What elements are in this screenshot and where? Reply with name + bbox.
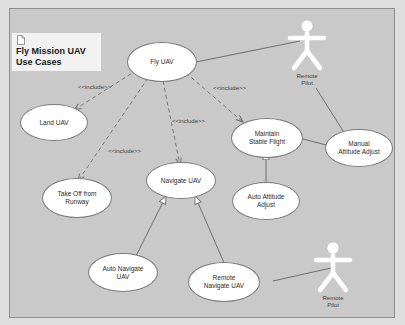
use-case-navigate-uav[interactable]: Navigate UAV xyxy=(146,162,216,199)
use-case-label: Fly UAV xyxy=(150,58,173,66)
use-case-diagram: Fly Mission UAV Use Cases Fly UAV Land U… xyxy=(0,0,405,325)
actor-remote-pilot-bottom[interactable]: Remote Pilot xyxy=(307,240,359,309)
include-label-fly-to-land: <<include>> xyxy=(78,84,111,90)
use-case-fly-uav[interactable]: Fly UAV xyxy=(127,42,197,82)
use-case-label: Navigate UAV xyxy=(161,177,201,185)
use-case-label: Manual Attitude Adjust xyxy=(338,140,380,156)
page-title: Fly Mission UAV Use Cases xyxy=(16,46,97,67)
diagram-title-box: Fly Mission UAV Use Cases xyxy=(12,33,101,71)
use-case-manual-attitude-adjust[interactable]: Manual Attitude Adjust xyxy=(325,129,393,167)
use-case-label: Maintain Stable Flight xyxy=(249,130,285,146)
include-label-fly-to-navigate: <<include>> xyxy=(172,118,205,124)
use-case-label: Remote Navigate UAV xyxy=(204,274,244,290)
use-case-remote-navigate-uav[interactable]: Remote Navigate UAV xyxy=(188,262,260,302)
use-case-auto-navigate-uav[interactable]: Auto Navigate UAV xyxy=(88,253,158,292)
use-case-label: Take Off from Runway xyxy=(58,190,97,206)
use-case-auto-attitude-adjust[interactable]: Auto Attitude Adjust xyxy=(232,182,300,220)
include-label-fly-to-takeoff: <<include>> xyxy=(108,148,141,154)
include-label-fly-to-maintain: <<include>> xyxy=(213,85,246,91)
use-case-label: Auto Navigate UAV xyxy=(103,265,144,281)
actor-remote-pilot-top[interactable]: Remote Pilot xyxy=(281,18,333,87)
use-case-label: Auto Attitude Adjust xyxy=(248,193,285,209)
actor-label: Remote Pilot xyxy=(307,295,359,309)
actor-stick-figure-icon xyxy=(307,240,359,294)
document-icon xyxy=(17,35,25,45)
actor-stick-figure-icon xyxy=(281,18,333,72)
use-case-label: Land UAV xyxy=(39,119,68,127)
use-case-maintain-stable-flight[interactable]: Maintain Stable Flight xyxy=(231,118,303,158)
use-case-take-off-runway[interactable]: Take Off from Runway xyxy=(42,178,112,218)
use-case-land-uav[interactable]: Land UAV xyxy=(20,104,88,141)
actor-label: Remote Pilot xyxy=(281,73,333,87)
